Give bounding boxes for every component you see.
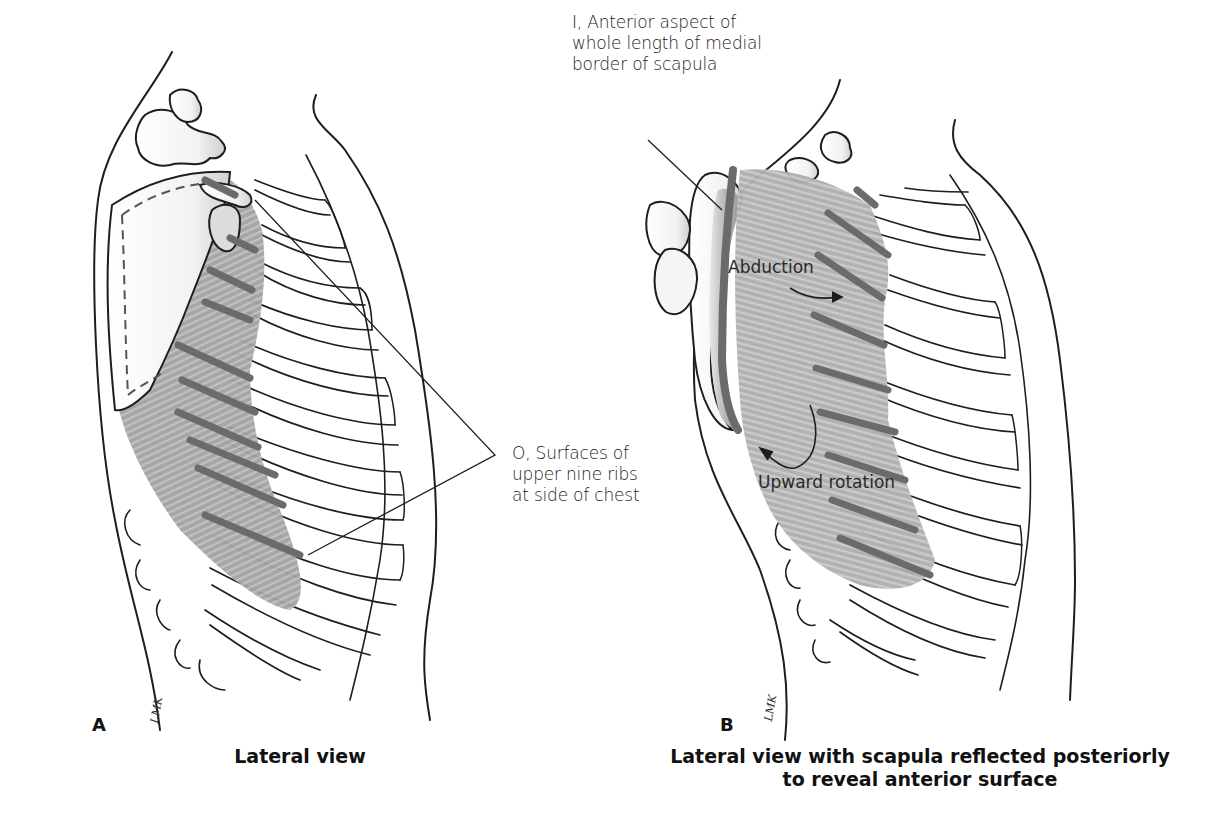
upward-rotation-label: Upward rotation	[758, 472, 895, 492]
origin-label: O, Surfaces of upper nine ribs at side o…	[512, 443, 639, 506]
anatomy-figure	[0, 0, 1213, 813]
panel-letter-b: B	[720, 714, 734, 735]
caption-panel-b: Lateral view with scapula reflected post…	[640, 745, 1200, 791]
panel-letter-a: A	[92, 714, 106, 735]
caption-panel-a: Lateral view	[180, 745, 420, 768]
abduction-label: Abduction	[728, 257, 814, 277]
leader-lines	[255, 140, 722, 555]
insertion-label: I, Anterior aspect of whole length of me…	[572, 12, 762, 75]
